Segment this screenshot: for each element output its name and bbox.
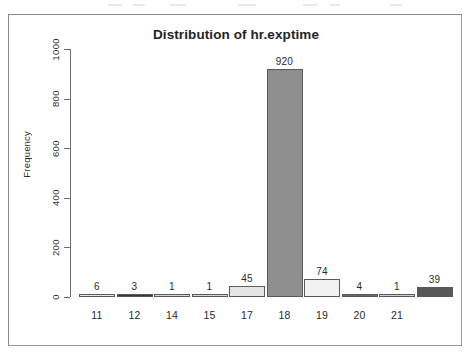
y-axis-tick-label: 800 xyxy=(50,90,61,107)
x-axis-tick-label: 18 xyxy=(267,309,303,321)
x-axis-tick-label: 19 xyxy=(304,309,340,321)
bar-rect xyxy=(154,294,190,297)
bar-value-label: 3 xyxy=(132,281,138,292)
bar-item: 74 xyxy=(304,266,340,297)
bar-value-label: 45 xyxy=(241,273,253,284)
bar-item: 1 xyxy=(379,281,415,297)
y-axis-tick-mark xyxy=(64,297,70,298)
y-axis-tick-label-wrap: 1000 xyxy=(39,35,61,63)
y-axis-tick-label: 200 xyxy=(50,239,61,256)
bar-value-label: 39 xyxy=(429,274,441,285)
bar-value-label: 74 xyxy=(316,266,328,277)
y-axis-tick-mark xyxy=(64,99,70,100)
bar-rect xyxy=(192,294,228,297)
scan-speck xyxy=(133,4,145,6)
bar-item: 39 xyxy=(417,274,453,297)
chart-frame: Distribution of hr.exptime Frequency 020… xyxy=(8,14,462,346)
x-axis-tick-label: 20 xyxy=(342,309,378,321)
x-axis-tick-label: 12 xyxy=(117,309,153,321)
bar-rect xyxy=(342,294,378,297)
bar-item: 920 xyxy=(267,56,303,297)
bar-value-label: 1 xyxy=(394,281,400,292)
bar-rect xyxy=(379,294,415,297)
y-axis-line xyxy=(70,49,71,297)
scan-speck xyxy=(390,4,402,6)
x-axis-tick-label: 15 xyxy=(192,309,228,321)
scan-speck xyxy=(330,4,340,6)
bar-value-label: 920 xyxy=(276,56,293,67)
y-axis-tick-label-wrap: 600 xyxy=(39,134,61,162)
plot-area: Frequency 02004006008001000 631145920744… xyxy=(9,15,463,347)
y-axis-tick-label: 600 xyxy=(50,140,61,157)
x-axis-tick-label: 17 xyxy=(229,309,265,321)
bar-value-label: 1 xyxy=(169,281,175,292)
y-axis-tick-label-wrap: 800 xyxy=(39,85,61,113)
scan-speck xyxy=(238,4,256,6)
scan-artifact xyxy=(0,0,471,13)
bar-rect xyxy=(417,287,453,297)
bar-value-label: 4 xyxy=(357,281,363,292)
y-axis-tick-label-wrap: 0 xyxy=(39,283,61,311)
y-axis-tick-label: 1000 xyxy=(50,38,61,61)
y-axis-tick-mark xyxy=(64,148,70,149)
bar-item: 6 xyxy=(79,281,115,297)
y-axis-tick-label: 400 xyxy=(50,189,61,206)
x-axis-tick-label: 14 xyxy=(154,309,190,321)
y-axis-tick-mark xyxy=(64,198,70,199)
bar-rect xyxy=(117,294,153,297)
scan-speck xyxy=(108,4,122,6)
bar-rect xyxy=(267,69,303,297)
y-axis-tick-label: 0 xyxy=(50,294,61,300)
bar-rect xyxy=(229,286,265,297)
x-axis-tick-label: 11 xyxy=(79,309,115,321)
bar-item: 4 xyxy=(342,281,378,297)
scan-speck xyxy=(170,4,186,6)
bar-rect xyxy=(304,279,340,297)
bar-value-label: 6 xyxy=(94,281,100,292)
bar-item: 3 xyxy=(117,281,153,297)
bar-rect xyxy=(79,294,115,297)
bar-item: 45 xyxy=(229,273,265,297)
bar-item: 1 xyxy=(154,281,190,297)
x-axis-tick-label: 21 xyxy=(379,309,415,321)
y-axis-tick-label-wrap: 200 xyxy=(39,233,61,261)
bar-value-label: 1 xyxy=(207,281,213,292)
bar-item: 1 xyxy=(192,281,228,297)
scan-speck xyxy=(303,4,317,6)
y-axis-tick-label-wrap: 400 xyxy=(39,184,61,212)
y-axis-title: Frequency xyxy=(21,131,32,178)
y-axis-tick-mark xyxy=(64,247,70,248)
y-axis-tick-mark xyxy=(64,49,70,50)
